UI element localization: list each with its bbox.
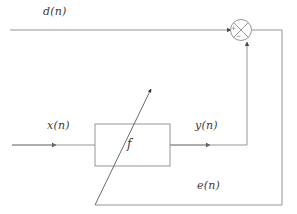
signal-path-error-feedback: [95, 30, 282, 205]
filter-block-rect: [95, 124, 170, 166]
summing-junction-plus-sign: +: [231, 25, 236, 31]
block-diagram-canvas: d(n) x(n) y(n) e(n) f + −: [0, 0, 297, 214]
diagram-vector-layer: [0, 0, 297, 214]
summing-junction-minus-sign: −: [236, 33, 241, 39]
label-error-signal: e(n): [197, 180, 220, 191]
label-input-signal: x(n): [47, 120, 70, 131]
label-desired-signal: d(n): [43, 6, 67, 17]
adaptation-arrow: [95, 89, 151, 205]
label-filter-block: f: [127, 138, 132, 150]
label-output-signal: y(n): [195, 120, 218, 131]
